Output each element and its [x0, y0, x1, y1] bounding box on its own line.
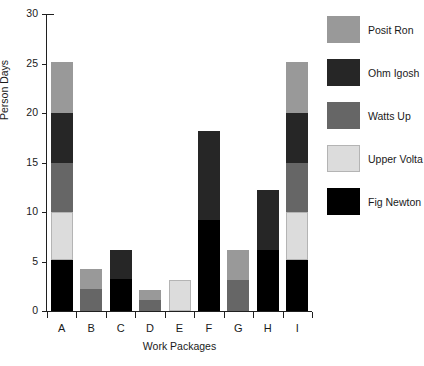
- bar-e: [169, 280, 191, 311]
- bar-segment-h-ohm-igosh: [257, 190, 279, 249]
- bar-segment-i-fig-newton: [286, 260, 308, 311]
- x-tick-label-e: E: [168, 322, 192, 335]
- y-tick-label: 30: [26, 7, 38, 19]
- x-tick-label-b: B: [79, 322, 103, 335]
- bar-d: [139, 290, 161, 311]
- bar-a: [51, 62, 73, 311]
- bar-segment-e-upper-volta: [169, 280, 191, 311]
- bar-segment-a-watts-up: [51, 163, 73, 213]
- legend-swatch: [327, 102, 360, 129]
- bar-c: [110, 250, 132, 311]
- bar-segment-a-fig-newton: [51, 260, 73, 311]
- x-tick-mark: [224, 312, 225, 318]
- bar-segment-c-fig-newton: [110, 279, 132, 311]
- bar-g: [227, 250, 249, 311]
- x-tick-label-d: D: [138, 322, 162, 335]
- x-tick-mark: [165, 312, 166, 318]
- bar-segment-i-posit-ron: [286, 62, 308, 113]
- bar-f: [198, 131, 220, 311]
- y-tick-label: 10: [26, 205, 38, 217]
- bar-segment-b-posit-ron: [80, 269, 102, 289]
- x-tick-mark: [253, 312, 254, 318]
- chart-legend: Posit RonOhm IgoshWatts UpUpper VoltaFig…: [327, 16, 422, 231]
- y-tick-label: 5: [32, 255, 38, 267]
- bar-segment-i-upper-volta: [286, 212, 308, 260]
- legend-swatch: [327, 16, 360, 43]
- legend-item-posit-ron: Posit Ron: [327, 16, 422, 59]
- legend-item-upper-volta: Upper Volta: [327, 145, 422, 188]
- legend-swatch: [327, 188, 360, 215]
- bar-segment-d-posit-ron: [139, 290, 161, 300]
- plot-area: [47, 14, 312, 311]
- legend-label: Ohm Igosh: [368, 67, 419, 79]
- x-axis-title: Work Packages: [47, 340, 312, 352]
- legend-label: Upper Volta: [368, 153, 423, 165]
- bar-h: [257, 190, 279, 311]
- legend-label: Posit Ron: [368, 24, 414, 36]
- y-tick-label: 25: [26, 57, 38, 69]
- y-tick-label: 15: [26, 156, 38, 168]
- bar-segment-i-watts-up: [286, 163, 308, 213]
- bar-b: [80, 269, 102, 311]
- x-tick-label-h: H: [256, 322, 280, 335]
- bar-segment-b-watts-up: [80, 289, 102, 311]
- bar-segment-f-fig-newton: [198, 220, 220, 311]
- bar-segment-f-ohm-igosh: [198, 131, 220, 220]
- stacked-bar-chart: 051015202530 ABCDEFGHI Person Days Work …: [0, 0, 424, 366]
- legend-item-fig-newton: Fig Newton: [327, 188, 422, 231]
- x-tick-label-c: C: [109, 322, 133, 335]
- x-tick-label-i: I: [285, 322, 309, 335]
- bar-segment-a-ohm-igosh: [51, 113, 73, 163]
- legend-swatch: [327, 145, 360, 172]
- x-tick-mark: [106, 312, 107, 318]
- x-tick-mark: [283, 312, 284, 318]
- x-tick-label-a: A: [50, 322, 74, 335]
- bar-segment-g-watts-up: [227, 280, 249, 311]
- bar-segment-c-ohm-igosh: [110, 250, 132, 280]
- y-tick-label: 20: [26, 106, 38, 118]
- bar-segment-g-posit-ron: [227, 250, 249, 281]
- x-tick-label-f: F: [197, 322, 221, 335]
- y-tick-label: 0: [32, 304, 38, 316]
- bar-segment-i-ohm-igosh: [286, 113, 308, 163]
- x-tick-mark: [312, 312, 313, 318]
- bar-i: [286, 62, 308, 311]
- x-tick-mark: [47, 312, 48, 318]
- legend-swatch: [327, 59, 360, 86]
- x-axis-line: [46, 311, 312, 312]
- legend-label: Fig Newton: [368, 196, 421, 208]
- legend-item-watts-up: Watts Up: [327, 102, 422, 145]
- x-tick-mark: [76, 312, 77, 318]
- legend-item-ohm-igosh: Ohm Igosh: [327, 59, 422, 102]
- bar-segment-a-posit-ron: [51, 62, 73, 113]
- bar-segment-d-watts-up: [139, 300, 161, 311]
- x-tick-mark: [194, 312, 195, 318]
- x-tick-mark: [135, 312, 136, 318]
- bar-segment-a-upper-volta: [51, 212, 73, 260]
- y-axis-title: Person Days: [0, 60, 10, 120]
- x-tick-label-g: G: [226, 322, 250, 335]
- bar-segment-h-fig-newton: [257, 250, 279, 311]
- legend-label: Watts Up: [368, 110, 411, 122]
